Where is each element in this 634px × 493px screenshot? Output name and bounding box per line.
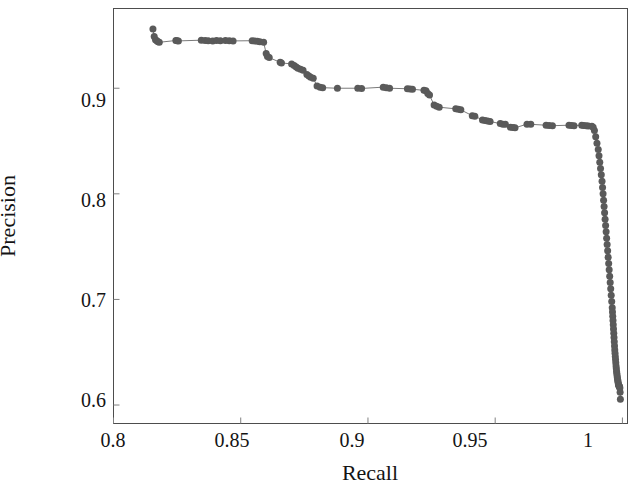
data-point	[605, 260, 612, 267]
data-point	[604, 241, 611, 248]
x-axis-title: Recall	[342, 462, 398, 484]
plot-canvas	[0, 0, 634, 493]
y-tick-label-1: 0.7	[60, 290, 106, 310]
data-point	[606, 273, 613, 280]
data-point	[595, 146, 602, 153]
data-point	[617, 389, 624, 396]
data-point	[599, 184, 606, 191]
data-point	[358, 85, 365, 92]
data-point	[426, 92, 433, 99]
data-point	[617, 396, 624, 403]
x-tick-label-1: 0.85	[215, 430, 250, 450]
x-tick-label-3: 0.95	[453, 430, 488, 450]
precision-recall-markers	[149, 26, 623, 403]
data-point	[549, 122, 556, 129]
precision-recall-figure: 0.8 0.85 0.9 0.95 1 0.6 0.7 0.8 0.9 Reca…	[0, 0, 634, 493]
data-point	[601, 209, 608, 216]
data-point	[386, 85, 393, 92]
data-point	[600, 190, 607, 197]
data-point	[596, 159, 603, 166]
plot-frame	[114, 9, 628, 424]
data-point	[597, 165, 604, 172]
data-point	[175, 37, 182, 44]
data-point	[310, 75, 317, 82]
data-point	[457, 106, 464, 113]
data-point	[606, 266, 613, 273]
data-point	[593, 140, 600, 147]
data-point	[604, 247, 611, 254]
data-point	[598, 171, 605, 178]
data-point	[601, 203, 608, 210]
data-point	[319, 84, 326, 91]
data-point	[409, 86, 416, 93]
data-point	[607, 279, 614, 286]
y-tick-label-2: 0.8	[60, 190, 106, 210]
data-point	[603, 228, 610, 235]
y-axis-title: Precision	[0, 175, 19, 257]
data-point	[592, 133, 599, 140]
x-tick-label-2: 0.9	[340, 430, 365, 450]
x-tick-label-4: 1	[583, 430, 593, 450]
data-point	[608, 298, 615, 305]
data-point	[591, 127, 598, 134]
y-tick-label-3: 0.9	[60, 90, 106, 110]
data-point	[156, 39, 163, 46]
data-point	[230, 37, 237, 44]
data-point	[607, 285, 614, 292]
data-point	[571, 122, 578, 129]
y-axis-ticks	[114, 88, 120, 405]
data-point	[596, 152, 603, 159]
data-point	[527, 121, 534, 128]
data-point	[602, 222, 609, 229]
data-point	[266, 54, 273, 61]
data-point	[149, 26, 156, 33]
data-point	[278, 59, 285, 66]
data-point	[599, 178, 606, 185]
data-point	[603, 235, 610, 242]
data-point	[512, 124, 519, 131]
data-point	[334, 85, 341, 92]
data-point	[605, 254, 612, 261]
data-point	[471, 113, 478, 120]
data-point	[487, 118, 494, 125]
data-point	[602, 216, 609, 223]
data-point	[608, 292, 615, 299]
data-point	[600, 197, 607, 204]
data-point	[436, 104, 443, 111]
x-tick-label-0: 0.8	[101, 430, 126, 450]
y-tick-label-0: 0.6	[60, 390, 106, 410]
data-point	[260, 39, 267, 46]
x-axis-ticks	[114, 418, 623, 424]
